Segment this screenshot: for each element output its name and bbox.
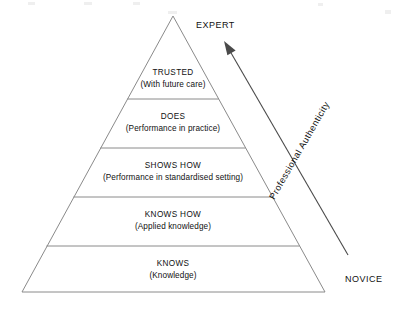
- tier-subtitle-knows-how: (Applied knowledge): [135, 222, 211, 231]
- pyramid-outline: [22, 16, 325, 292]
- scan-artifacts: [28, 2, 391, 14]
- tier-subtitle-does: (Performance in practice): [126, 124, 221, 133]
- tier-title-knows-how: KNOWS HOW: [145, 210, 201, 219]
- tier-subtitle-shows-how: (Performance in standardised setting): [103, 173, 243, 182]
- tier-title-does: DOES: [161, 112, 186, 121]
- tier-title-shows-how: SHOWS HOW: [145, 161, 201, 170]
- tier-subtitle-trusted: (With future care): [140, 80, 205, 89]
- endpoint-label-novice: NOVICE: [345, 274, 383, 284]
- pyramid-diagram-canvas: TRUSTED (With future care) DOES (Perform…: [0, 0, 399, 315]
- pyramid-diagram: TRUSTED (With future care) DOES (Perform…: [0, 0, 399, 315]
- arrow-label-professional-authenticity: Professional Authenticity: [267, 100, 331, 201]
- arrow-head-icon: [224, 41, 236, 55]
- tier-subtitle-knows: (Knowledge): [149, 271, 196, 280]
- tier-title-knows: KNOWS: [157, 259, 190, 268]
- endpoint-label-expert: EXPERT: [196, 20, 235, 30]
- tier-title-trusted: TRUSTED: [152, 68, 193, 77]
